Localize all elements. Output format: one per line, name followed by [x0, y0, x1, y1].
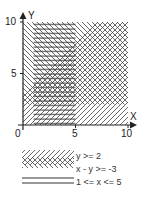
y-axis-label: Y	[28, 10, 35, 21]
legend-label-x-minus-y: x - y >= -3	[76, 164, 117, 174]
x-tick-label-5: 5	[72, 128, 78, 139]
legend-swatch-x-minus-y	[22, 157, 74, 168]
y-tick-label-10: 10	[5, 16, 17, 27]
y-axis-arrow-icon	[20, 12, 27, 19]
y-tick-label-5: 5	[11, 68, 17, 79]
inequality-chart: 0 5 10 5 10 Y X y >= 2 x - y >= -3 1 <= …	[0, 0, 151, 202]
x-axis-label: X	[130, 111, 137, 122]
x-tick-label-0: 0	[15, 128, 21, 139]
legend: y >= 2 x - y >= -3 1 <= x <= 5	[22, 150, 122, 187]
plot-area	[23, 22, 128, 125]
x-tick-label-10: 10	[121, 128, 133, 139]
legend-label-y-ge-2: y >= 2	[76, 151, 101, 161]
legend-label-x-between: 1 <= x <= 5	[76, 177, 122, 187]
region-x-between-1-and-5	[34, 22, 76, 125]
